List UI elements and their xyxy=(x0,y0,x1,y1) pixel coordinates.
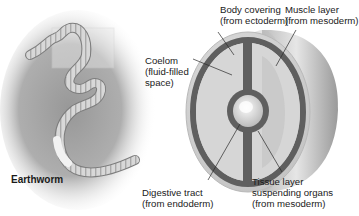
label-text: Muscle layer xyxy=(285,4,359,15)
label-body-covering: Body covering (from ectoderm) xyxy=(220,4,288,26)
label-text: Digestive tract xyxy=(142,187,213,198)
coelomate-cross-section xyxy=(186,30,338,192)
label-text: suspending organs xyxy=(252,187,333,198)
label-earthworm: Earthworm xyxy=(11,174,63,185)
label-tissue-layer: Tissue layer suspending organs (from mes… xyxy=(252,176,333,209)
label-muscle-layer: Muscle layer (from mesoderm) xyxy=(285,4,359,26)
label-text: Tissue layer xyxy=(252,176,333,187)
label-coelom: Coelom (fluid-filled space) xyxy=(145,55,189,88)
label-text: (from mesoderm) xyxy=(285,15,359,26)
label-text: (fluid-filled xyxy=(145,66,189,77)
label-text: (from mesoderm) xyxy=(252,198,333,209)
label-text: Body covering xyxy=(220,4,288,15)
label-text: (from ectoderm) xyxy=(220,15,288,26)
label-text: space) xyxy=(145,77,189,88)
label-text: Coelom xyxy=(145,55,189,66)
label-text: (from endoderm) xyxy=(142,198,213,209)
label-digestive-tract: Digestive tract (from endoderm) xyxy=(142,187,213,209)
